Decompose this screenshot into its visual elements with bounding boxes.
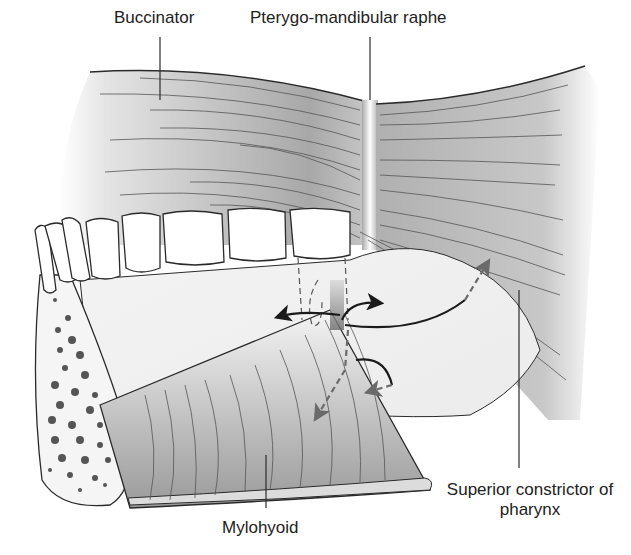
label-superior-constrictor: Superior constrictor of pharynx bbox=[432, 480, 628, 520]
label-pterygo-mandibular-raphe: Pterygo-mandibular raphe bbox=[250, 8, 447, 28]
label-mylohyoid: Mylohyoid bbox=[222, 518, 299, 538]
anatomy-drawing bbox=[0, 0, 631, 555]
duct-shading bbox=[330, 280, 344, 330]
raphe-band bbox=[362, 100, 378, 250]
anatomy-figure: Buccinator Pterygo-mandibular raphe Supe… bbox=[0, 0, 631, 555]
label-buccinator: Buccinator bbox=[114, 8, 194, 28]
